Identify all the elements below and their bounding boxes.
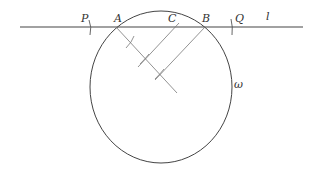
label-q: Q [235, 12, 244, 25]
label-c: C [168, 12, 177, 25]
label-p: P [80, 12, 89, 25]
label-l: l [266, 10, 270, 23]
diagram-canvas: P A C B Q l ω [0, 0, 318, 171]
label-b: B [201, 12, 210, 25]
parallel-line-c [138, 23, 179, 67]
construction-line-a [116, 27, 177, 93]
label-a: A [113, 12, 122, 25]
arc-mark-2 [140, 54, 149, 64]
label-omega: ω [234, 78, 243, 91]
line-b [155, 27, 205, 80]
circle-omega [90, 11, 232, 163]
